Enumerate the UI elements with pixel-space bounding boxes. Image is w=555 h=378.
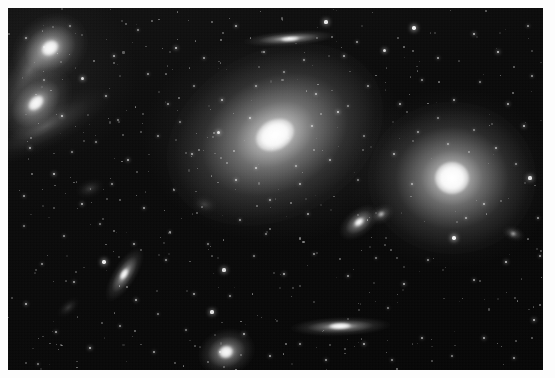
sky-field xyxy=(8,8,543,370)
screenshot-root xyxy=(0,0,555,378)
astronomical-image-plate xyxy=(8,8,543,370)
film-grain-overlay xyxy=(8,8,543,370)
